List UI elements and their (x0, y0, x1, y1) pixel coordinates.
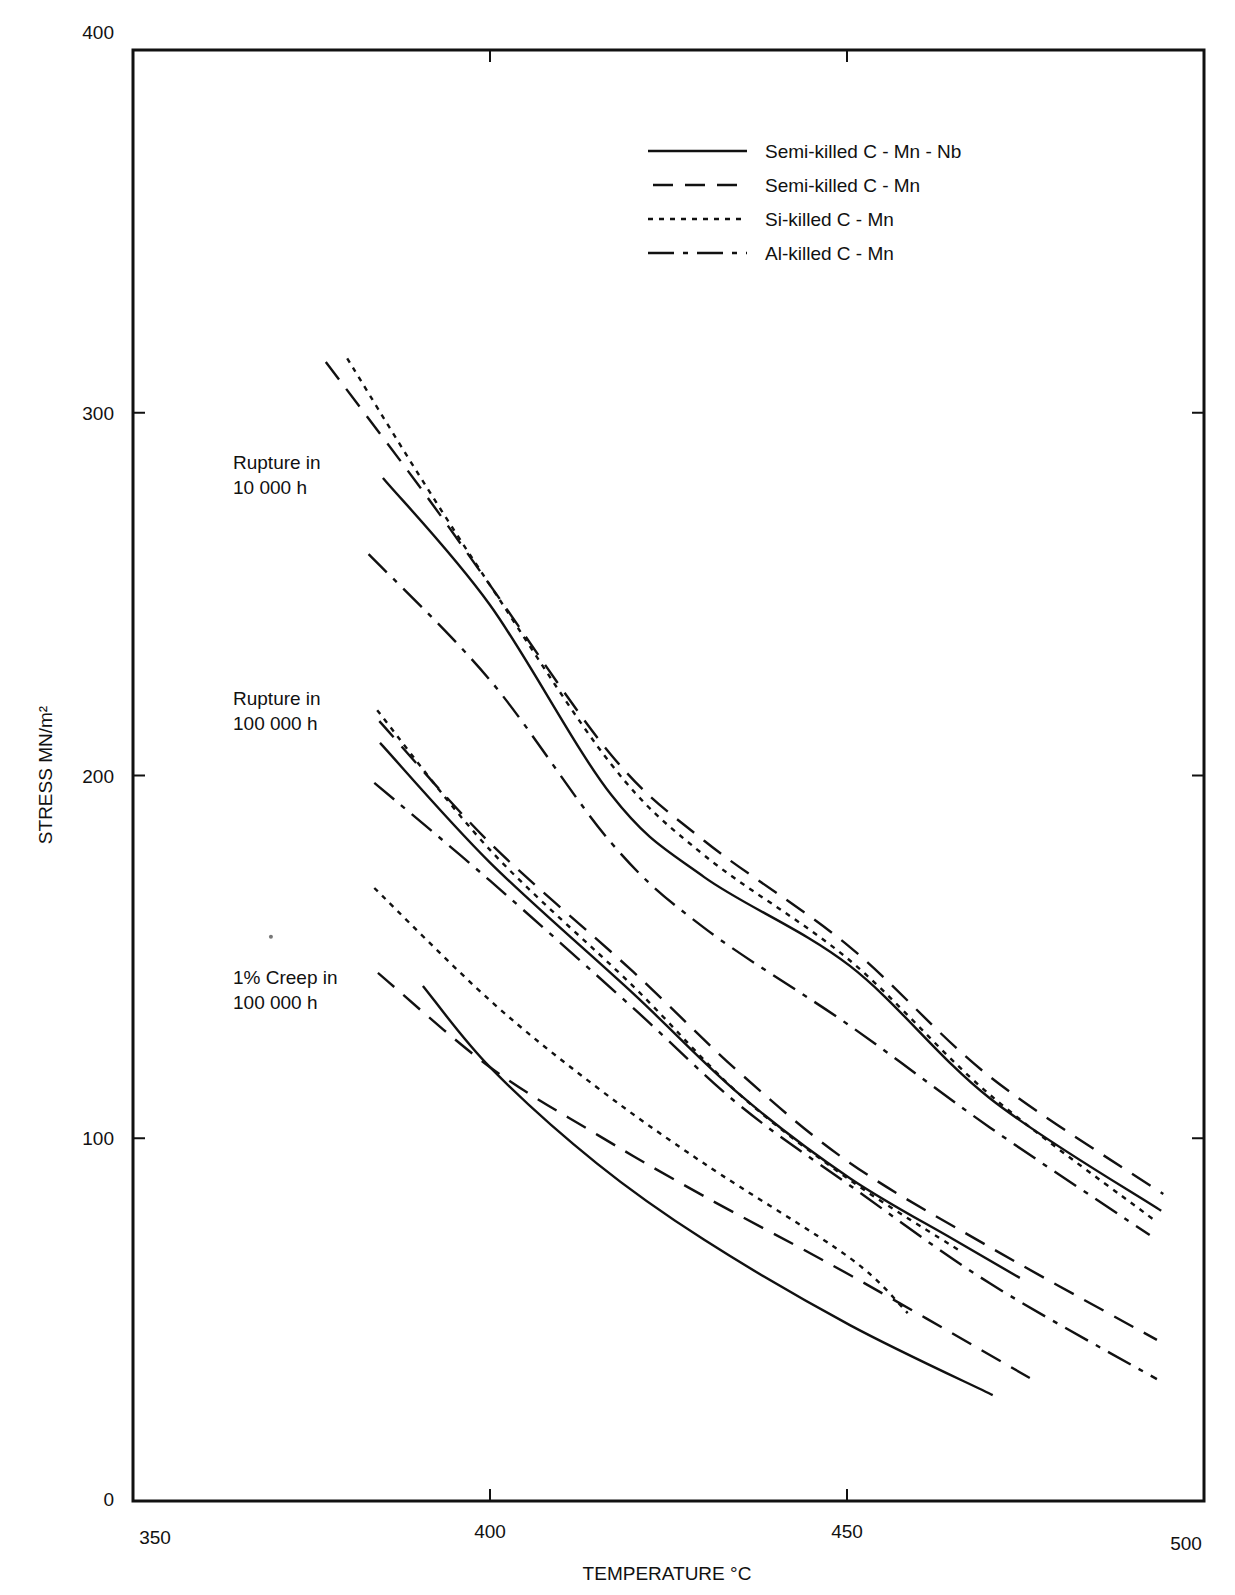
stray-mark (269, 935, 273, 939)
legend: Semi-killed C - Mn - NbSemi-killed C - M… (648, 141, 961, 264)
legend-label: Semi-killed C - Mn - Nb (765, 141, 961, 162)
x-tick-label: 500 (1170, 1533, 1202, 1554)
y-tick-label: 0 (103, 1489, 114, 1510)
plot-frame (133, 50, 1204, 1501)
group-label: Rupture in100 000 h (233, 688, 321, 734)
creep-rupture-chart: 3504004505000100200300400 Rupture in10 0… (0, 0, 1235, 1595)
curve-solid-1-creep-in-100-000-h (423, 986, 993, 1395)
y-tick-label: 200 (82, 766, 114, 787)
group-label: Rupture in10 000 h (233, 452, 321, 498)
axis-ticks: 3504004505000100200300400 (82, 22, 1204, 1554)
x-axis-title: TEMPERATURE °C (583, 1563, 752, 1584)
curve-dashdot-rupture-in-100-000-h (374, 783, 1157, 1379)
curve-dotted-rupture-in-10-000-h (347, 358, 1154, 1220)
curve-layer (326, 358, 1164, 1395)
x-tick-label: 450 (831, 1521, 863, 1542)
curve-dashed-rupture-in-100-000-h (379, 721, 1157, 1340)
y-tick-label: 100 (82, 1128, 114, 1149)
group-label: 1% Creep in100 000 h (233, 967, 338, 1013)
legend-label: Semi-killed C - Mn (765, 175, 920, 196)
curve-dashed-rupture-in-10-000-h (326, 362, 1164, 1194)
x-tick-label: 350 (139, 1527, 171, 1548)
legend-label: Al-killed C - Mn (765, 243, 894, 264)
group-annotations: Rupture in10 000 hRupture in100 000 h1% … (233, 452, 338, 1013)
curve-dotted-rupture-in-100-000-h (377, 710, 960, 1250)
legend-label: Si-killed C - Mn (765, 209, 894, 230)
curve-solid-rupture-in-100-000-h (380, 743, 1020, 1278)
y-tick-label: 400 (82, 22, 114, 43)
curve-dashed-1-creep-in-100-000-h (378, 973, 1030, 1378)
curve-dotted-1-creep-in-100-000-h (374, 888, 907, 1313)
x-tick-label: 400 (474, 1521, 506, 1542)
y-axis-title: STRESS MN/m² (35, 706, 56, 844)
plot-border (133, 50, 1204, 1501)
y-tick-label: 300 (82, 403, 114, 424)
